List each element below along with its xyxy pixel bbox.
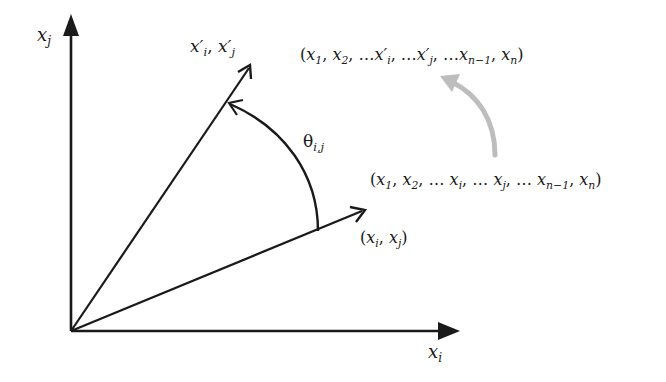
tuple-element: x xyxy=(537,170,546,189)
rotated-vector-label: x′i, x′j xyxy=(190,38,235,59)
paren-close: ) xyxy=(401,228,407,247)
tuple-element: x xyxy=(459,45,468,64)
tuple-punctuation: , … xyxy=(348,45,374,64)
tuple-punctuation: , … xyxy=(462,170,493,189)
axis-arrow-icon xyxy=(438,322,460,340)
label-subscript: j xyxy=(231,45,235,59)
rotated-tuple: (x1, x2, …x′i, …x′j, …xn−1, xn) xyxy=(300,47,524,67)
vertical-axis-label: xj xyxy=(37,26,51,48)
angle-subscript: i,j xyxy=(313,140,324,154)
tuple-punctuation: , xyxy=(322,45,332,64)
theta-symbol: θ xyxy=(303,131,313,151)
label-base: x′ xyxy=(218,36,231,56)
original-vector xyxy=(71,207,365,331)
tuple-element: x xyxy=(306,45,315,64)
tuple-punctuation: , xyxy=(392,170,402,189)
tuple-element-subscript: n−1 xyxy=(468,54,491,67)
tuple-punctuation: ) xyxy=(595,170,601,189)
angle-arc xyxy=(229,100,318,231)
tuple-punctuation: , … xyxy=(506,170,537,189)
label-base: x xyxy=(428,341,438,362)
label-separator: , xyxy=(379,228,389,247)
tuple-element: x xyxy=(501,45,510,64)
axis-arrow-icon xyxy=(63,14,79,36)
vector-arrow-icon xyxy=(238,65,251,79)
tuple-punctuation: , xyxy=(491,45,501,64)
original-tuple: (x1, x2, … xi, … xj, … xn−1, xn) xyxy=(370,172,602,192)
horizontal-axis-label: xi xyxy=(428,343,442,365)
label-base: x′ xyxy=(190,36,203,56)
tuple-punctuation: , … xyxy=(391,45,417,64)
label-base: x xyxy=(37,24,47,45)
tuple-element: x′ xyxy=(417,45,430,64)
tuple-element: x xyxy=(376,170,385,189)
tuple-element: x xyxy=(579,170,588,189)
label-subscript: i xyxy=(438,351,442,365)
tuple-punctuation: , … xyxy=(433,45,459,64)
horizontal-axis xyxy=(71,322,460,340)
label-base: x xyxy=(389,228,398,247)
vertical-axis xyxy=(63,14,79,331)
original-vector-label: (xi, xj) xyxy=(360,230,408,250)
tuple-punctuation: , xyxy=(569,170,579,189)
label-base: x xyxy=(366,228,375,247)
label-subscript: j xyxy=(47,34,51,48)
tuple-element: x′ xyxy=(375,45,388,64)
tuple-element: x xyxy=(450,170,459,189)
rotated-vector xyxy=(71,65,251,331)
tuple-punctuation: , … xyxy=(418,170,449,189)
tuple-punctuation: ) xyxy=(517,45,523,64)
transformation-arrow xyxy=(440,74,495,155)
label-separator: , xyxy=(207,36,218,56)
tuple-element-subscript: n−1 xyxy=(546,179,569,192)
angle-label: θi,j xyxy=(303,133,324,154)
